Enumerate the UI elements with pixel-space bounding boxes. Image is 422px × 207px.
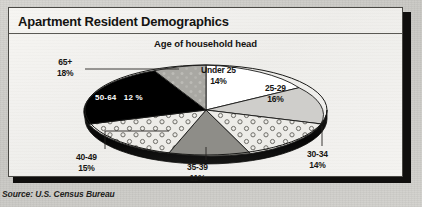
pie-label-50-64-value: 12 % [124, 93, 143, 102]
pie-label-30-34-name: 30-34 [307, 149, 328, 159]
figure-frame: Apartment Resident Demographics Age of h… [8, 7, 403, 177]
pie-label-40-49: 40-49 15% [76, 152, 97, 173]
pie-label-30-34: 30-34 14% [307, 149, 328, 170]
pie-label-65-plus: 65+ 18% [57, 57, 73, 78]
pie-label-25-29-name: 25-29 [265, 83, 286, 93]
pie-label-40-49-name: 40-49 [76, 152, 97, 162]
pie-label-under-25-name: Under 25 [201, 65, 236, 75]
pie-label-50-64: 50-64 12 % [95, 93, 143, 104]
source-note: Source: U.S. Census Bureau [2, 189, 115, 199]
pie-label-under-25: Under 25 14% [201, 65, 236, 86]
pie-label-35-39: 35-39 11% [187, 162, 208, 183]
pie-chart: 65+ 18% 50-64 12 % 40-49 15% 35-39 11% 3… [9, 8, 404, 178]
pie-label-65-plus-value: 18% [57, 68, 73, 79]
pie-label-50-64-name: 50-64 [95, 93, 116, 102]
pie-label-30-34-value: 14% [307, 160, 328, 171]
pie-label-35-39-value: 11% [187, 173, 208, 184]
pie-label-65-plus-name: 65+ [58, 57, 72, 67]
pie-label-25-29: 25-29 16% [265, 83, 286, 104]
pie-chart-svg [9, 8, 404, 178]
pie-label-25-29-value: 16% [265, 94, 286, 105]
pie-label-35-39-name: 35-39 [187, 162, 208, 172]
pie-label-under-25-value: 14% [201, 76, 236, 87]
pie-label-40-49-value: 15% [76, 163, 97, 174]
